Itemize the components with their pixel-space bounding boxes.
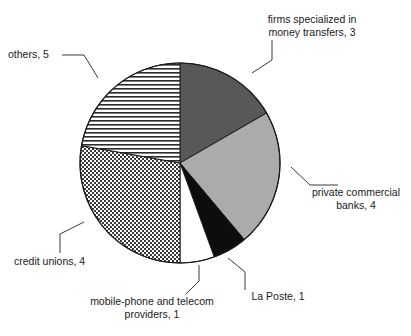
pie-slice-credit-unions[interactable]	[80, 146, 180, 263]
pie-slice-others[interactable]	[82, 63, 181, 163]
slice-label-credit-unions: credit unions, 4	[14, 255, 124, 268]
leader-line-laposte	[228, 258, 245, 290]
slice-label-others: others, 5	[8, 48, 80, 61]
pie-slices	[80, 63, 280, 263]
leader-line-firms	[252, 40, 272, 73]
leader-line-mobile	[186, 265, 199, 294]
slice-label-private-commercial-banks: private commercial banks, 4	[304, 186, 408, 212]
pie-chart-figure: firms specialized in money transfers, 3 …	[0, 0, 411, 336]
leader-line-banks	[291, 167, 338, 185]
slice-label-firms-specialized-in-money-transfers: firms specialized in money transfers, 3	[247, 13, 377, 39]
slice-label-la-poste: La Poste, 1	[238, 290, 318, 303]
leader-line-credit	[60, 222, 84, 253]
slice-label-mobile-phone-and-telecom-providers: mobile-phone and telecom providers, 1	[78, 295, 226, 321]
